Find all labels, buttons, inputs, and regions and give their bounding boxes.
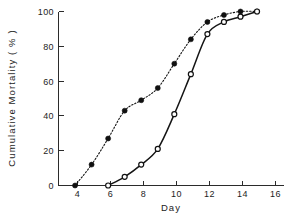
axes-frame [59, 12, 284, 186]
data-point [122, 174, 127, 179]
data-point [73, 183, 78, 188]
x-tick-label-8: 8 [141, 189, 146, 199]
x-tick-label-12: 12 [204, 189, 215, 199]
data-point [238, 14, 243, 19]
data-point [221, 19, 226, 24]
data-point [106, 183, 111, 188]
y-tick-label-0: 0 [49, 181, 54, 191]
data-point [205, 32, 210, 37]
y-axis-title: Cumulative Mortality ( % ) [6, 29, 17, 166]
data-point [139, 162, 144, 167]
data-point [221, 12, 226, 17]
data-point [238, 9, 243, 14]
data-point [106, 136, 111, 141]
data-point [172, 61, 177, 66]
data-point [188, 72, 193, 77]
series-line-filled-circle-dotted [75, 11, 257, 185]
y-tick-label-100: 100 [38, 7, 54, 17]
figure-canvas: 100 80 60 40 20 0 4 6 8 10 12 14 16 Day … [0, 0, 298, 214]
series-open-circle-solid [106, 9, 260, 188]
series-filled-circle-dotted [73, 9, 260, 188]
y-axis-ticks: 100 80 60 40 20 0 [38, 7, 64, 191]
y-tick-label-40: 40 [43, 111, 54, 121]
data-point [188, 37, 193, 42]
x-axis-ticks: 4 6 8 10 12 14 16 [75, 181, 281, 200]
data-point [139, 98, 144, 103]
data-point [205, 19, 210, 24]
data-point [155, 86, 160, 91]
data-point [89, 162, 94, 167]
cumulative-mortality-chart: 100 80 60 40 20 0 4 6 8 10 12 14 16 Day … [0, 0, 298, 214]
y-tick-label-20: 20 [43, 146, 54, 156]
data-point [122, 108, 127, 113]
x-tick-label-14: 14 [237, 189, 248, 199]
data-point [172, 112, 177, 117]
data-point [255, 9, 260, 14]
x-axis-title: Day [161, 202, 181, 213]
y-tick-label-80: 80 [43, 42, 54, 52]
x-tick-label-16: 16 [270, 189, 281, 199]
x-tick-label-6: 6 [108, 189, 113, 199]
data-series-layer [73, 9, 260, 188]
y-tick-label-60: 60 [43, 77, 54, 87]
x-tick-label-10: 10 [171, 189, 182, 199]
x-tick-label-4: 4 [75, 189, 80, 199]
data-point [155, 146, 160, 151]
series-line-open-circle-solid [108, 12, 257, 186]
